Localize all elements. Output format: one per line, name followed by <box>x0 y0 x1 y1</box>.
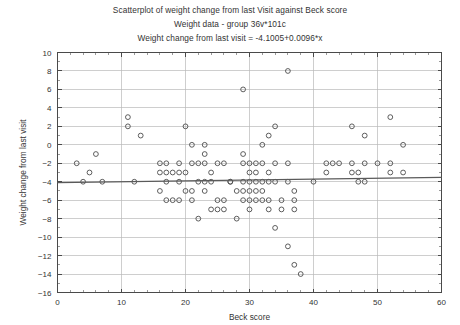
data-point <box>164 170 169 175</box>
y-tick-label: −4 <box>42 178 52 187</box>
y-tick-label: 6 <box>47 85 52 94</box>
chart-equation-annotation: Weight change from last visit = -4.1005+… <box>0 31 460 45</box>
data-point <box>388 115 393 120</box>
data-point <box>388 170 393 175</box>
data-point <box>279 207 284 212</box>
data-point <box>138 133 143 138</box>
data-point <box>158 189 163 194</box>
x-tick-label: 0 <box>55 298 60 307</box>
gridlines <box>58 53 442 293</box>
y-tick-label: −10 <box>38 233 52 242</box>
y-tick-label: 10 <box>43 49 52 58</box>
data-point <box>202 152 207 157</box>
data-point <box>266 170 271 175</box>
x-axis-title: Beck score <box>229 312 270 322</box>
x-tick-label: 60 <box>437 298 446 307</box>
data-point <box>292 189 297 194</box>
data-point <box>241 152 246 157</box>
y-tick-label: −12 <box>38 252 52 261</box>
chart-title-block: Scatterplot of weight change from last V… <box>0 3 460 45</box>
chart-title: Scatterplot of weight change from last V… <box>0 3 460 17</box>
data-point <box>266 207 271 212</box>
y-tick-labels: 1086420−2−4−6−8−10−12−14−16 <box>38 49 52 298</box>
data-point <box>87 170 92 175</box>
data-point <box>222 207 227 212</box>
y-tick-label: 4 <box>47 104 52 113</box>
data-point <box>254 189 259 194</box>
y-tick-label: 8 <box>47 67 52 76</box>
y-tick-label: −14 <box>38 270 52 279</box>
data-point <box>273 225 278 230</box>
data-point <box>158 170 163 175</box>
data-point <box>260 189 265 194</box>
x-tick-label: 40 <box>309 298 318 307</box>
y-tick-label: 0 <box>47 141 52 150</box>
y-tick-label: 2 <box>47 122 52 131</box>
data-point-markers <box>74 69 405 277</box>
data-point <box>177 170 182 175</box>
data-point <box>209 170 214 175</box>
data-point <box>170 170 175 175</box>
x-tick-label: 30 <box>245 298 254 307</box>
data-point <box>241 189 246 194</box>
data-point <box>292 207 297 212</box>
data-point <box>94 152 99 157</box>
data-point <box>286 244 291 249</box>
data-point <box>254 170 259 175</box>
y-tick-label: −16 <box>38 289 52 298</box>
data-point <box>234 189 239 194</box>
scatterplot-figure: Scatterplot of weight change from last V… <box>0 0 460 325</box>
y-axis-title: Weight change from last visit <box>18 119 28 226</box>
y-tick-label: −6 <box>42 196 52 205</box>
data-point <box>126 115 131 120</box>
data-point <box>356 170 361 175</box>
data-point <box>209 207 214 212</box>
y-tick-label: −2 <box>42 159 52 168</box>
data-point <box>266 133 271 138</box>
x-tick-labels: 0102030405060 <box>55 298 446 307</box>
x-tick-label: 50 <box>373 298 382 307</box>
data-point <box>190 189 195 194</box>
data-point <box>202 189 207 194</box>
data-point <box>401 170 406 175</box>
x-tick-label: 20 <box>181 298 190 307</box>
plot-canvas: 1086420−2−4−6−8−10−12−14−16 010203040506… <box>0 0 460 325</box>
data-point <box>292 262 297 267</box>
data-point <box>362 133 367 138</box>
data-point <box>215 207 220 212</box>
y-tick-label: −8 <box>42 215 52 224</box>
x-tick-label: 10 <box>117 298 126 307</box>
chart-subtitle: Weight data - group 36v*101c <box>0 17 460 31</box>
data-point <box>350 170 355 175</box>
data-point <box>324 170 329 175</box>
